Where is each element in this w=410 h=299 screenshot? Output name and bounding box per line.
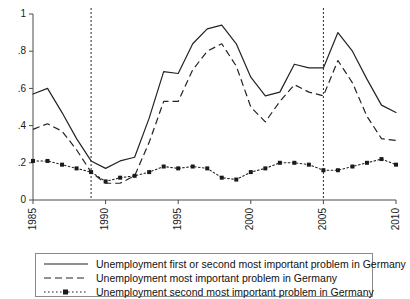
legend-item-0: Unemployment first or second most import… bbox=[36, 257, 372, 270]
series-2-marker-17 bbox=[278, 161, 282, 165]
legend-label-0: Unemployment first or second most import… bbox=[96, 258, 406, 270]
legend-key-dotted-marker-line-icon bbox=[42, 286, 96, 298]
series-2-marker-11 bbox=[191, 165, 195, 169]
series-2-marker-4 bbox=[89, 170, 93, 174]
y-tick-label-5: 1 bbox=[20, 8, 26, 19]
series-2-marker-1 bbox=[46, 159, 50, 163]
series-2-marker-16 bbox=[263, 166, 267, 170]
y-tick-label-2: .4 bbox=[18, 120, 27, 131]
series-2-marker-8 bbox=[147, 170, 151, 174]
x-tick-label-1: 1990 bbox=[99, 208, 110, 231]
series-2-marker-3 bbox=[75, 166, 79, 170]
x-tick-label-3: 2000 bbox=[244, 208, 255, 231]
series-2-marker-0 bbox=[31, 159, 35, 163]
chart-legend: Unemployment first or second most import… bbox=[35, 253, 373, 297]
series-2-marker-19 bbox=[307, 163, 311, 167]
legend-label-2: Unemployment second most important probl… bbox=[96, 286, 374, 298]
series-line-2 bbox=[33, 159, 396, 181]
series-2-marker-18 bbox=[292, 161, 296, 165]
series-2-marker-23 bbox=[365, 161, 369, 165]
series-2-marker-14 bbox=[234, 178, 238, 182]
series-2-marker-25 bbox=[394, 163, 398, 167]
series-line-1 bbox=[33, 44, 396, 184]
y-tick-label-1: .2 bbox=[18, 157, 27, 168]
series-2-marker-13 bbox=[220, 176, 224, 180]
series-2-marker-9 bbox=[162, 165, 166, 169]
series-line-0 bbox=[33, 25, 396, 168]
legend-item-1: Unemployment most important problem in G… bbox=[36, 271, 372, 284]
series-2-marker-21 bbox=[336, 168, 340, 172]
y-tick-label-3: .6 bbox=[18, 83, 27, 94]
x-tick-label-2: 1995 bbox=[172, 208, 183, 231]
legend-key-solid-line-icon bbox=[42, 258, 96, 270]
series-2-marker-5 bbox=[104, 179, 108, 183]
series-2-marker-7 bbox=[133, 174, 137, 178]
y-tick-label-4: .8 bbox=[18, 45, 27, 56]
legend-item-2: Unemployment second most important probl… bbox=[36, 285, 372, 298]
series-2-marker-2 bbox=[60, 163, 64, 167]
x-tick-label-4: 2005 bbox=[317, 208, 328, 231]
chart-figure: 0.2.4.6.81198519901995200020052010 Unemp… bbox=[0, 0, 410, 299]
series-2-marker-6 bbox=[118, 176, 122, 180]
series-2-marker-24 bbox=[379, 157, 383, 161]
legend-label-1: Unemployment most important problem in G… bbox=[96, 272, 337, 284]
series-2-marker-20 bbox=[321, 168, 325, 172]
x-tick-label-5: 2010 bbox=[390, 208, 401, 231]
legend-key-dashed-line-icon bbox=[42, 272, 96, 284]
x-tick-label-0: 1985 bbox=[27, 208, 38, 231]
series-2-marker-12 bbox=[205, 166, 209, 170]
series-2-marker-10 bbox=[176, 166, 180, 170]
series-2-marker-22 bbox=[350, 165, 354, 169]
y-tick-label-0: 0 bbox=[20, 194, 26, 205]
series-2-marker-15 bbox=[249, 170, 253, 174]
